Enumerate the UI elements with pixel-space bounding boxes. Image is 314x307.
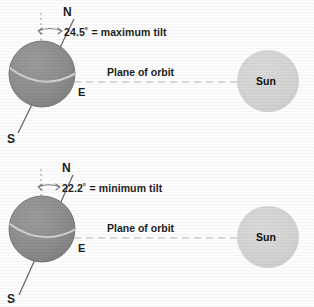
north-pole-label: N bbox=[62, 162, 71, 174]
tilt-angle-arrow bbox=[38, 28, 62, 34]
plane-of-orbit-label: Plane of orbit bbox=[107, 67, 174, 78]
sun-label: Sun bbox=[256, 232, 276, 243]
tilt-angle-label: 24.5˚ = maximum tilt bbox=[64, 27, 167, 38]
north-pole-label: N bbox=[63, 6, 72, 18]
diagram-maximum-tilt: N S E 24.5˚ = maximum tilt Plane of orbi… bbox=[0, 0, 314, 153]
equator-label: E bbox=[78, 243, 85, 254]
equator-label: E bbox=[78, 87, 85, 98]
diagram-minimum-tilt: N S E 22.2˚ = minimum tilt Plane of orbi… bbox=[0, 153, 314, 306]
south-pole-label: S bbox=[7, 293, 15, 305]
plane-of-orbit-label: Plane of orbit bbox=[107, 223, 174, 234]
south-pole-label: S bbox=[7, 133, 15, 145]
sun-label: Sun bbox=[256, 76, 276, 87]
tilt-angle-label: 22.2˚ = minimum tilt bbox=[62, 183, 162, 194]
tilt-angle-arrow bbox=[38, 184, 60, 190]
